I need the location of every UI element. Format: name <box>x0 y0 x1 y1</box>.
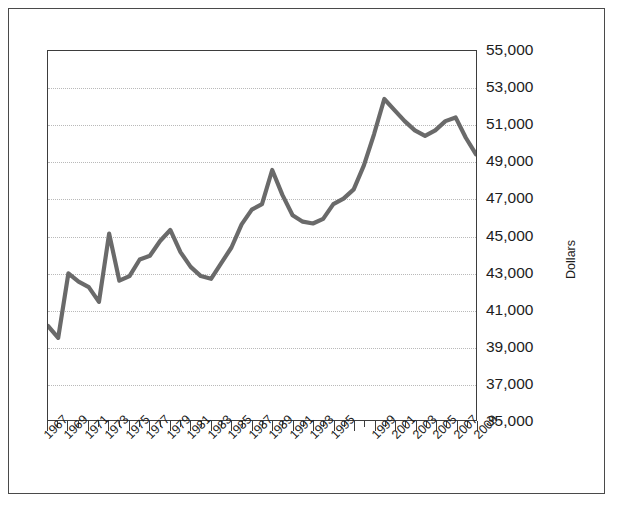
y-axis-tick-label: 39,000 <box>486 338 564 356</box>
y-axis-tick-label: 43,000 <box>486 264 564 282</box>
y-axis-tick-label: 45,000 <box>486 227 564 245</box>
data-line-svg <box>48 51 476 420</box>
y-axis-tick-label: 53,000 <box>486 78 564 96</box>
chart-page: 55,00053,00051,00049,00047,00045,00043,0… <box>0 0 621 510</box>
plot-area <box>47 50 477 421</box>
y-axis-tick-label: 47,000 <box>486 189 564 207</box>
line-chart: 55,00053,00051,00049,00047,00045,00043,0… <box>8 8 605 494</box>
y-axis-tick-label: 55,000 <box>486 41 564 59</box>
x-axis-tick <box>364 421 365 427</box>
y-axis-tick-label: 41,000 <box>486 301 564 319</box>
y-axis-tick-label: 49,000 <box>486 152 564 170</box>
x-axis-tick-labels: 1967196919711973197519771979198119831985… <box>47 432 477 492</box>
income-line <box>48 99 476 338</box>
y-axis-tick-label: 51,000 <box>486 115 564 133</box>
y-axis-title: Dollars <box>564 240 578 279</box>
y-axis-tick-label: 37,000 <box>486 375 564 393</box>
